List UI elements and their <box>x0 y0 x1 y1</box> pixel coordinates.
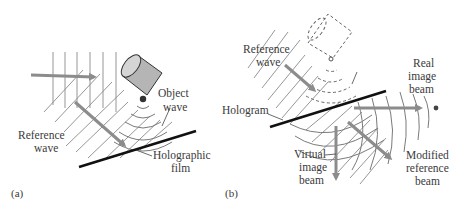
reference-wave-label-b-line2: wave <box>256 56 280 68</box>
object-wave-label-line2: wave <box>163 101 187 113</box>
panel-a-label: (a) <box>11 187 24 200</box>
real-image-beam-label-line2: image <box>408 70 436 83</box>
virtual-image-beam-label-line1: Virtual <box>294 148 326 160</box>
reference-wave-label-b-line1: Reference <box>243 43 290 55</box>
virtual-object-dashed <box>305 14 352 61</box>
reference-beam-arrow <box>31 75 94 77</box>
holographic-film-label-line2: film <box>171 162 190 174</box>
holography-diagram: Object wave Reference wave Holographic f… <box>0 0 467 218</box>
virtual-image-beam-label-line3: beam <box>299 174 324 186</box>
modified-reference-beam-label-line1: Modified <box>406 149 449 161</box>
real-image-beam-label-line3: beam <box>409 83 434 95</box>
virtual-image-leader <box>325 154 336 155</box>
point-source <box>140 96 146 102</box>
reference-wave-label-line1: Reference <box>18 129 65 141</box>
reference-wavefronts-vertical <box>53 52 116 112</box>
panel-b: Reference wave Hologram Real image beam … <box>222 14 449 200</box>
reference-beam-diagonal-arrow <box>75 102 124 145</box>
holographic-film-label-line1: Holographic <box>153 149 210 162</box>
hologram-label: Hologram <box>222 104 269 117</box>
object-wave-label-line1: Object <box>158 87 189 100</box>
object-cylinder <box>117 51 162 102</box>
reference-wave-label-line2: wave <box>34 142 58 154</box>
virtual-image-beam-label-line2: image <box>299 161 327 174</box>
real-image-point <box>434 106 439 111</box>
modified-reference-beam-label-line3: beam <box>415 175 440 187</box>
panel-a: Object wave Reference wave Holographic f… <box>11 51 210 200</box>
panel-b-label: (b) <box>225 187 238 200</box>
object-wave-leader-b <box>352 72 357 84</box>
modified-reference-beam-label-line2: reference <box>406 162 449 174</box>
real-image-beam-label-line1: Real <box>413 57 434 69</box>
hologram-leader <box>268 114 283 120</box>
